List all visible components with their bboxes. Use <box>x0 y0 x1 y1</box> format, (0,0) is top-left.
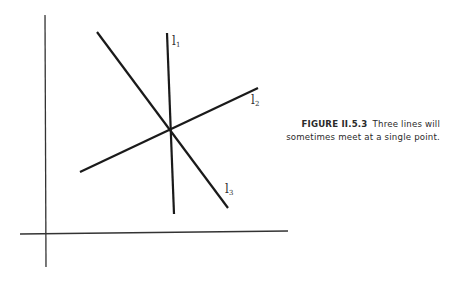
caption-text-line1: Three lines will <box>373 119 440 129</box>
caption-text-line2: sometimes meet at a single point. <box>270 131 440 144</box>
label-l2: l 2 <box>251 93 259 108</box>
line-l1 <box>167 33 174 214</box>
line-l3 <box>97 32 228 208</box>
y-axis <box>45 15 46 267</box>
svg-text:1: 1 <box>176 41 180 49</box>
label-l1: l 1 <box>172 34 180 49</box>
figure-label: FIGURE II.5.3 <box>301 119 367 129</box>
label-l3: l 3 <box>225 182 233 197</box>
svg-text:2: 2 <box>255 100 259 108</box>
x-axis <box>20 231 288 234</box>
figure-caption: FIGURE II.5.3Three lines will sometimes … <box>270 118 440 144</box>
svg-text:3: 3 <box>229 189 233 197</box>
